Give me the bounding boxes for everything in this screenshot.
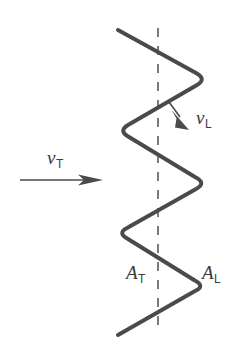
transverse-velocity-label: vT [47, 148, 63, 167]
zigzag-wave-path [118, 30, 202, 335]
longitudinal-amplitude-subscript: L [214, 272, 221, 286]
transverse-amplitude-label: AT [126, 263, 145, 282]
transverse-amplitude-subscript: T [138, 272, 145, 286]
longitudinal-arrow-head [172, 110, 190, 130]
longitudinal-velocity-subscript: L [205, 117, 212, 131]
transverse-velocity-arrow [20, 175, 103, 186]
longitudinal-amplitude-label: AL [202, 263, 220, 282]
diagram-canvas [0, 0, 245, 345]
longitudinal-velocity-label: vL [196, 108, 211, 127]
longitudinal-velocity-arrow [169, 102, 189, 130]
wave-diagram-figure: vT vL AT AL [0, 0, 245, 345]
transverse-amplitude-symbol: A [126, 262, 138, 283]
longitudinal-velocity-symbol: v [196, 107, 204, 128]
transverse-velocity-subscript: T [56, 157, 63, 171]
longitudinal-amplitude-symbol: A [202, 262, 214, 283]
transverse-velocity-symbol: v [47, 147, 55, 168]
